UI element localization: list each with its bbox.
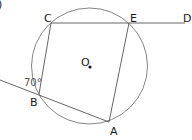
label-C: C [44,12,52,25]
label-O: O [81,56,90,69]
chord-EA [109,23,129,122]
line-through-BA [0,80,109,122]
label-D: D [183,12,191,25]
label-A: A [110,125,118,138]
partial-question-label: ) [0,0,2,11]
label-B: B [30,96,38,109]
circle-geometry-diagram: ) C E D B A O 70° [0,0,192,140]
angle-label-70: 70° [24,77,42,88]
label-E: E [130,12,137,25]
